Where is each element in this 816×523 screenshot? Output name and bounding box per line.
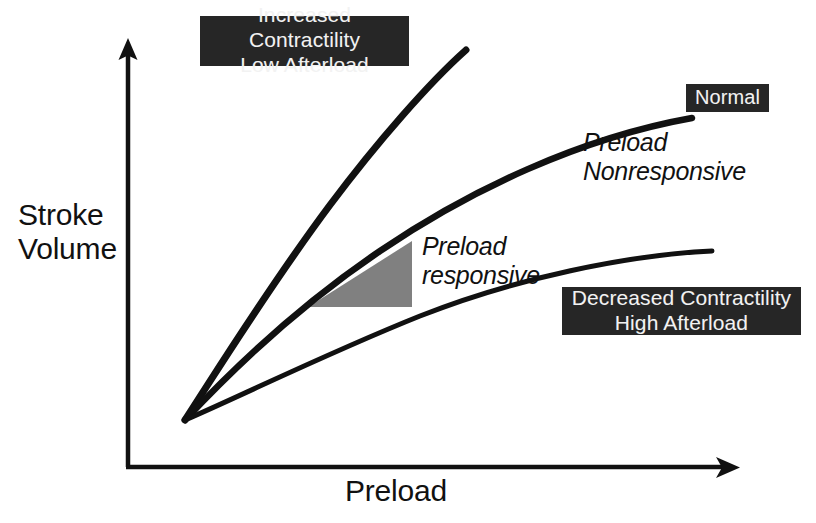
annotation-preload-nonresponsive: Preload Nonresponsive [583, 128, 746, 186]
callout-decreased-contractility: Decreased Contractility High Afterload [562, 287, 801, 335]
frank-starling-curve-figure: Stroke Volume Preload Increased Contract… [0, 0, 816, 523]
annotation-preload-responsive: Preload responsive [422, 232, 540, 290]
callout-normal: Normal [686, 84, 769, 112]
callout-increased-contractility: Increased Contractility Low Afterload [200, 16, 409, 66]
x-axis-label: Preload [345, 474, 447, 508]
y-axis-label: Stroke Volume [18, 198, 122, 265]
preload-responsive-triangle [308, 241, 412, 307]
chart-plot-area [0, 0, 816, 523]
